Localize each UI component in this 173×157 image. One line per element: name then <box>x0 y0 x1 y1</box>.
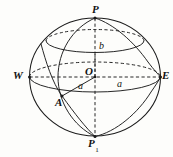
label-center: O <box>85 66 93 77</box>
label-segment-a-left: a <box>78 81 83 91</box>
label-north-pole: P <box>92 4 99 15</box>
oblique-great-circle-lower <box>95 77 161 137</box>
sphere-drawing <box>0 0 173 157</box>
sphere-diagram: P P1 W E O A b a a <box>0 0 173 157</box>
point-marker-P <box>94 17 97 20</box>
label-south-pole-letter: P <box>88 137 95 149</box>
label-west: W <box>13 70 23 81</box>
equator-ellipse-front <box>30 77 161 92</box>
label-point-a: A <box>55 97 62 108</box>
label-east: E <box>162 70 169 81</box>
label-segment-a-right: a <box>117 79 122 89</box>
point-marker-O <box>94 76 97 79</box>
label-south-pole-subscript: 1 <box>95 146 99 154</box>
label-segment-b: b <box>99 41 104 51</box>
point-marker-W <box>28 76 31 79</box>
oblique-great-circle-front <box>95 18 161 77</box>
label-south-pole: P1 <box>88 138 98 152</box>
